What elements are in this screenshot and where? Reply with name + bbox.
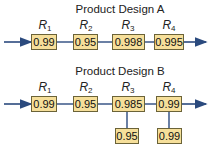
component-box-b2: 0.95 [73, 96, 98, 112]
design-b-title: Product Design B [75, 65, 165, 77]
r3-label-a: R3 [121, 18, 134, 33]
component-box-a4: 0.995 [154, 34, 184, 50]
r2-label-b: R2 [79, 80, 92, 95]
component-box-b1: 0.99 [31, 96, 57, 112]
component-box-b3: 0.985 [112, 96, 145, 112]
component-box-b4: 0.99 [156, 96, 182, 112]
r4-label-b: R4 [162, 80, 175, 95]
component-box-a1: 0.99 [31, 34, 57, 50]
design-a-title: Product Design A [76, 3, 165, 15]
r4-label-a: R4 [162, 18, 175, 33]
component-box-a3: 0.998 [112, 34, 145, 50]
r2-label-a: R2 [79, 18, 92, 33]
component-box-a2: 0.95 [73, 34, 98, 50]
r1-label-a: R1 [38, 18, 51, 33]
backup-box-b3: 0.95 [115, 128, 139, 144]
backup-box-b4: 0.99 [157, 128, 182, 144]
r1-label-b: R1 [38, 80, 51, 95]
r3-label-b: R3 [121, 80, 134, 95]
